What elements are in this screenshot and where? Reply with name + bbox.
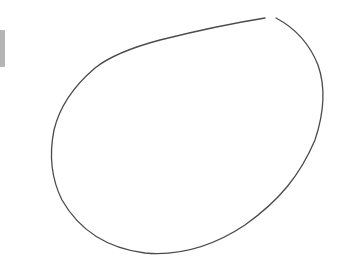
freehand-stroke bbox=[52, 18, 323, 253]
drawing-canvas[interactable] bbox=[0, 0, 345, 266]
